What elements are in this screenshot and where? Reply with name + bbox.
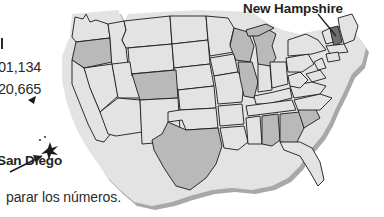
united-states-map[interactable] xyxy=(0,0,384,217)
san-diego-label: San Diego xyxy=(0,153,62,168)
state-mississippi xyxy=(246,116,262,144)
stat-value-1: 01,134 xyxy=(0,59,41,75)
state-nebraska xyxy=(174,64,214,90)
state-alabama xyxy=(262,114,280,146)
state-colorado xyxy=(132,70,178,100)
state-connecticut xyxy=(326,52,340,62)
textbook-map-figure: 01,134 20,665 San Diego New Hampshire pa… xyxy=(0,0,384,217)
caption-text: parar los números. xyxy=(6,189,121,205)
state-ohio xyxy=(270,62,288,88)
state-south-dakota xyxy=(172,40,210,68)
state-arkansas xyxy=(218,104,244,126)
state-kansas xyxy=(178,86,216,110)
state-indiana xyxy=(258,64,272,92)
state-montana xyxy=(122,16,172,48)
state-north-dakota xyxy=(170,16,208,44)
new-hampshire-label: New Hampshire xyxy=(243,1,343,16)
state-minnesota xyxy=(206,16,234,56)
stat-value-2: 20,665 xyxy=(0,81,41,97)
stat-tick-mark xyxy=(1,38,3,49)
state-wyoming xyxy=(128,44,174,74)
